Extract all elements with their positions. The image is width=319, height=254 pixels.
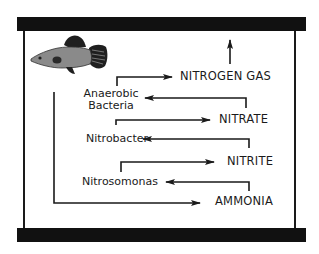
nitrogen-cycle-diagram: NITROGEN GAS NITRATE NITRITE AMMONIA Ana… (0, 0, 319, 254)
fish-icon (31, 35, 107, 74)
arrow-nitrobacter-to-nitrate (116, 120, 210, 125)
label-anaerobic-bacteria: Anaerobic Bacteria (80, 88, 142, 112)
label-nitrobacter: Nitrobacter (86, 133, 148, 144)
label-nitrogen-gas: NITROGEN GAS (180, 71, 271, 83)
label-nitrite: NITRITE (227, 156, 273, 168)
arrow-nitrate-to-anaerobic (145, 98, 246, 108)
tank-bottom-bar (17, 228, 306, 242)
diagram-graphics (0, 0, 319, 254)
arrow-nitrosomonas-to-nitrite (121, 162, 214, 172)
label-ammonia: AMMONIA (215, 196, 273, 208)
label-nitrosomonas: Nitrosomonas (82, 176, 158, 187)
arrow-nitrite-to-nitrobacter (143, 139, 249, 148)
arrow-anaerobic-to-nitrogen-gas (117, 77, 172, 86)
arrow-ammonia-to-nitrosomonas (166, 182, 249, 191)
label-nitrate: NITRATE (219, 114, 268, 126)
tank-top-bar (17, 17, 306, 31)
label-anaerobic-line2: Bacteria (80, 100, 142, 112)
